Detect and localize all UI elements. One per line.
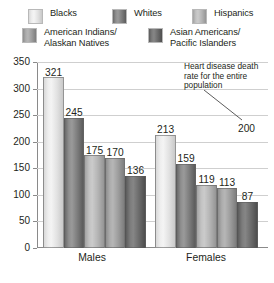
bar-value-label: 113	[219, 177, 235, 188]
legend-item-whites: Whites	[112, 8, 162, 24]
y-axis-label-200: 200	[13, 137, 30, 147]
legend-swatch-whites	[112, 9, 127, 24]
chart-legend: Blacks Whites Hispanics American Indians…	[0, 6, 274, 54]
y-axis-label-150: 150	[13, 163, 30, 173]
legend-item-blacks: Blacks	[28, 8, 77, 24]
bar-males-hispanics: 175	[84, 155, 105, 248]
bar-value-label: 170	[107, 147, 124, 158]
legend-item-american-indians-alaskan-natives: American Indians/ Alaskan Natives	[22, 27, 117, 48]
bar-males-blacks: 321	[43, 77, 64, 248]
bar-value-label: 136	[127, 165, 144, 176]
bar-females-blacks: 213	[155, 135, 176, 248]
x-axis-label-females: Females	[176, 252, 236, 264]
y-axis-label-100: 100	[13, 190, 30, 200]
legend-label-american-indians-alaskan-natives: American Indians/ Alaskan Natives	[44, 27, 117, 48]
legend-item-hispanics: Hispanics	[192, 8, 253, 24]
legend-swatch-asian-americans-pacific-islanders	[148, 28, 163, 43]
bar-value-label: 213	[157, 124, 174, 135]
bar-females-asian-americans: 87	[237, 202, 258, 248]
bar-value-label: 321	[45, 67, 62, 78]
x-axis-label-males: Males	[64, 252, 120, 264]
legend-swatch-blacks	[28, 9, 43, 24]
annotation-text: Heart disease death rate for the entire …	[184, 62, 272, 91]
y-axis-tick-0	[33, 248, 37, 249]
bar-males-asian-americans: 136	[125, 176, 146, 248]
bar-value-label: 119	[198, 174, 214, 185]
y-axis-label-0: 0	[24, 243, 30, 253]
bar-value-label: 245	[66, 107, 83, 118]
bar-value-label: 175	[86, 145, 103, 156]
legend-swatch-american-indians-alaskan-natives	[22, 28, 37, 43]
y-axis-label-250: 250	[13, 110, 30, 120]
bar-females-whites: 159	[176, 164, 197, 248]
bar-females-american-indians: 113	[217, 188, 238, 248]
bar-males-american-indians: 170	[105, 158, 126, 248]
bar-value-label: 159	[178, 153, 195, 164]
y-axis-label-350: 350	[13, 57, 30, 67]
heart-disease-death-rate-chart: Blacks Whites Hispanics American Indians…	[0, 0, 274, 283]
legend-label-asian-americans-pacific-islanders: Asian Americans/ Pacific Islanders	[170, 27, 240, 48]
legend-label-blacks: Blacks	[50, 8, 77, 19]
legend-item-asian-americans-pacific-islanders: Asian Americans/ Pacific Islanders	[148, 27, 240, 48]
bar-males-whites: 245	[64, 118, 85, 248]
y-axis-label-50: 50	[19, 216, 30, 226]
reference-value-label: 200	[238, 123, 255, 134]
legend-label-whites: Whites	[134, 8, 162, 19]
legend-label-hispanics: Hispanics	[214, 8, 253, 19]
bar-females-hispanics: 119	[196, 185, 217, 248]
legend-swatch-hispanics	[192, 9, 207, 24]
bar-value-label: 87	[242, 191, 253, 202]
y-axis-label-300: 300	[13, 84, 30, 94]
